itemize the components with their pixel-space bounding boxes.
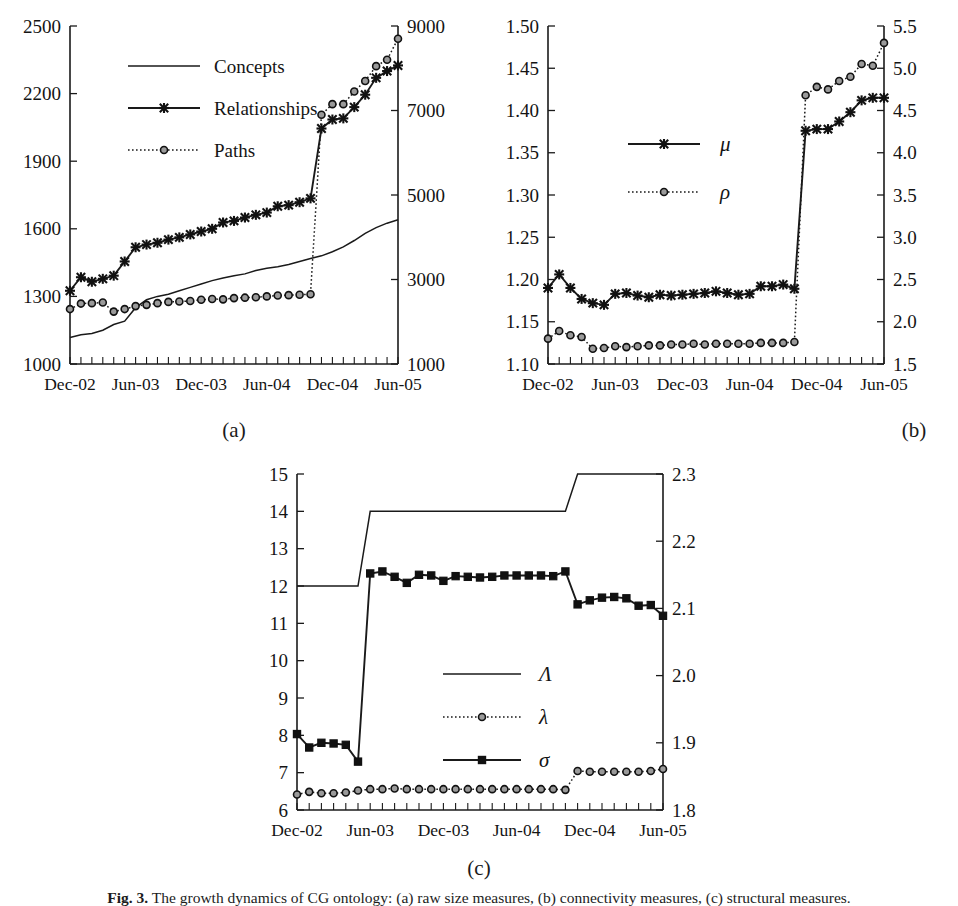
svg-text:Paths: Paths [214,140,255,161]
svg-text:λ: λ [538,705,548,729]
svg-text:1.45: 1.45 [506,58,539,79]
panel-c-chart: 67891011121314151.81.92.02.12.22.3Dec-02… [235,452,735,864]
svg-text:Dec-03: Dec-03 [175,374,227,394]
svg-text:8: 8 [279,725,289,746]
caption-text: The growth dynamics of CG ontology: (a) … [152,889,851,906]
svg-text:Λ: Λ [537,662,552,686]
svg-text:5.0: 5.0 [893,58,917,79]
svg-text:Jun-05: Jun-05 [639,820,687,840]
svg-text:2.5: 2.5 [893,269,917,290]
svg-text:1.40: 1.40 [506,100,539,121]
svg-text:2.3: 2.3 [672,464,696,485]
svg-text:1300: 1300 [23,286,61,307]
svg-text:1.9: 1.9 [672,732,696,753]
svg-text:ρ: ρ [719,180,730,204]
svg-text:12: 12 [269,576,288,597]
svg-text:15: 15 [269,464,288,485]
svg-text:1.25: 1.25 [506,227,539,248]
svg-text:Dec-04: Dec-04 [791,374,843,394]
svg-text:1.15: 1.15 [506,311,539,332]
svg-text:1900: 1900 [23,151,61,172]
svg-text:Dec-03: Dec-03 [657,374,709,394]
svg-text:Jun-05: Jun-05 [860,374,908,394]
svg-text:10: 10 [269,650,288,671]
svg-text:7: 7 [279,762,289,783]
svg-text:1600: 1600 [23,218,61,239]
svg-text:3.5: 3.5 [893,185,917,206]
svg-text:3.0: 3.0 [893,227,917,248]
svg-text:Jun-05: Jun-05 [374,374,422,394]
caption-prefix: Fig. 3. [107,889,148,906]
svg-text:σ: σ [539,748,551,772]
svg-text:4.0: 4.0 [893,142,917,163]
svg-text:Dec-02: Dec-02 [44,374,96,394]
svg-text:2.0: 2.0 [672,665,696,686]
svg-text:1.8: 1.8 [672,800,696,821]
svg-text:1000: 1000 [23,354,61,375]
svg-text:4.5: 4.5 [893,100,917,121]
panel-b-label: (b) [884,418,944,443]
svg-text:Dec-02: Dec-02 [522,374,574,394]
svg-text:1.50: 1.50 [506,16,539,37]
svg-text:Dec-04: Dec-04 [564,820,616,840]
panel-b-chart: 1.101.151.201.251.301.351.401.451.501.52… [476,4,958,419]
svg-text:Dec-02: Dec-02 [271,820,323,840]
svg-text:3000: 3000 [407,269,445,290]
panel-c: 67891011121314151.81.92.02.12.22.3Dec-02… [235,452,735,864]
svg-text:1000: 1000 [407,354,445,375]
svg-text:2500: 2500 [23,16,61,37]
svg-text:μ: μ [719,132,731,156]
svg-text:9000: 9000 [407,16,445,37]
svg-text:Relationships: Relationships [214,98,317,119]
svg-text:13: 13 [269,538,288,559]
svg-text:Jun-04: Jun-04 [493,820,541,840]
svg-text:6: 6 [279,800,289,821]
panel-a-label: (a) [204,418,264,443]
panel-b: 1.101.151.201.251.301.351.401.451.501.52… [476,4,958,419]
svg-text:1.30: 1.30 [506,185,539,206]
svg-text:5.5: 5.5 [893,16,917,37]
svg-text:2.0: 2.0 [893,311,917,332]
svg-text:1.5: 1.5 [893,354,917,375]
svg-text:Jun-03: Jun-03 [591,374,639,394]
svg-text:11: 11 [270,613,288,634]
svg-text:14: 14 [269,501,289,522]
svg-text:Dec-03: Dec-03 [418,820,470,840]
svg-text:Jun-04: Jun-04 [726,374,774,394]
svg-text:1.35: 1.35 [506,142,539,163]
panel-a-chart: 1000130016001900220025001000300050007000… [0,4,470,419]
svg-text:Jun-04: Jun-04 [243,374,291,394]
svg-text:2200: 2200 [23,83,61,104]
svg-text:7000: 7000 [407,100,445,121]
svg-text:9: 9 [279,688,289,709]
svg-text:Dec-04: Dec-04 [307,374,359,394]
svg-text:2.1: 2.1 [672,598,696,619]
svg-text:1.20: 1.20 [506,269,539,290]
svg-text:Concepts: Concepts [214,56,285,77]
svg-text:2.2: 2.2 [672,531,696,552]
svg-text:Jun-03: Jun-03 [346,820,394,840]
panel-a: 1000130016001900220025001000300050007000… [0,4,470,419]
svg-text:Jun-03: Jun-03 [112,374,160,394]
svg-text:5000: 5000 [407,185,445,206]
svg-text:1.10: 1.10 [506,354,539,375]
panel-c-label: (c) [449,856,509,881]
figure-caption: Fig. 3. The growth dynamics of CG ontolo… [0,889,958,906]
